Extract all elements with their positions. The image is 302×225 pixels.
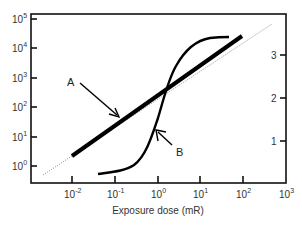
y-tick-label: 103	[12, 71, 27, 84]
y-tick-label: 105	[12, 12, 27, 25]
y-right-tick-label: 2	[271, 93, 277, 104]
arrow-a-icon	[80, 83, 117, 115]
x-tick-label: 10-2	[64, 187, 81, 200]
y-right-tick-label: 1	[271, 136, 277, 147]
y-tick-label: 104	[12, 41, 27, 54]
x-tick-label: 102	[236, 187, 251, 200]
y-tick-label: 102	[12, 100, 27, 113]
x-tick-label: 10-1	[107, 187, 124, 200]
chart: 100 101 102 103 104 105 1 2 3 10-2 10-1 …	[0, 0, 302, 225]
y-tick-label: 100	[12, 159, 27, 172]
y-left-axis: 100 101 102 103 104 105	[12, 12, 37, 172]
x-tick-label: 101	[193, 187, 208, 200]
label-b: B	[176, 146, 183, 158]
x-axis: 10-2 10-1 100 101 102 103 Exposure dose …	[64, 176, 294, 216]
y-tick-label: 101	[12, 130, 27, 143]
label-a: A	[67, 76, 75, 88]
y-right-axis: 1 2 3	[271, 50, 286, 147]
x-tick-label: 103	[279, 187, 294, 200]
y-right-tick-label: 3	[271, 50, 277, 61]
x-axis-title: Exposure dose (mR)	[112, 205, 204, 216]
x-tick-label: 100	[151, 187, 166, 200]
arrow-b-icon	[158, 132, 172, 145]
